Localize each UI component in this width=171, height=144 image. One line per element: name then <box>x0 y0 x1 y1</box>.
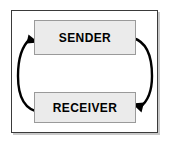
node-sender-label: SENDER <box>59 32 111 44</box>
node-receiver: RECEIVER <box>34 92 136 123</box>
node-receiver-label: RECEIVER <box>53 102 118 114</box>
diagram-canvas: SENDER RECEIVER <box>0 0 171 144</box>
node-sender: SENDER <box>34 20 136 55</box>
